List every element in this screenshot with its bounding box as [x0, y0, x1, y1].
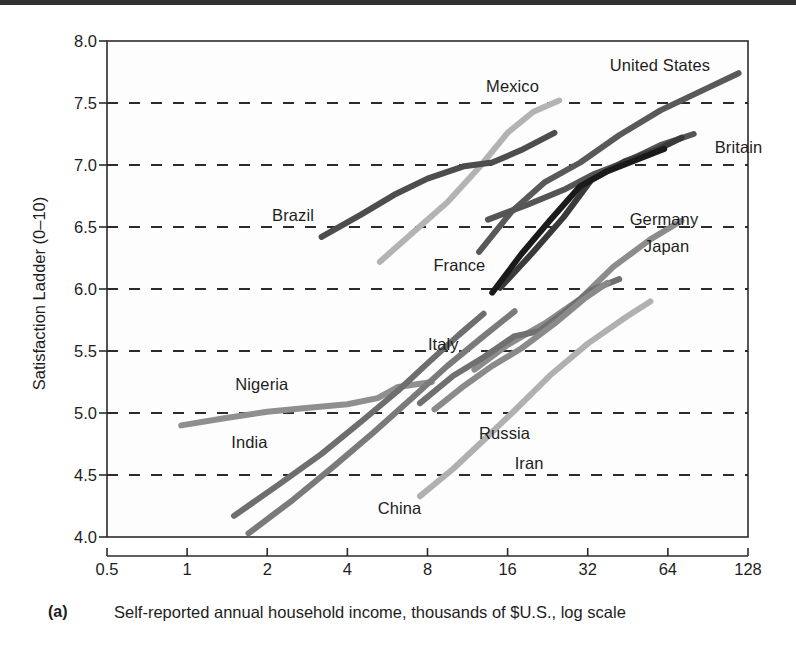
x-tick-label: 8 — [423, 560, 432, 579]
series-label-iran: Iran — [515, 454, 544, 473]
x-tick-label: 1 — [183, 560, 192, 579]
y-tick-label: 8.0 — [51, 32, 97, 51]
y-tick-label: 6.0 — [51, 280, 97, 299]
y-tick-label: 5.5 — [51, 342, 97, 361]
x-tick-label: 0.5 — [96, 560, 119, 579]
x-tick-label: 128 — [734, 560, 762, 579]
y-tick-label: 5.0 — [51, 404, 97, 423]
series-label-france: France — [433, 256, 485, 275]
y-tick-label: 4.5 — [51, 466, 97, 485]
series-label-nigeria: Nigeria — [235, 375, 288, 394]
panel-label: (a) — [48, 603, 68, 621]
y-tick-label: 6.5 — [51, 218, 97, 237]
y-tick-label: 7.0 — [51, 156, 97, 175]
series-label-italy: Italy — [428, 335, 459, 354]
x-tick-label: 64 — [659, 560, 677, 579]
series-label-germany: Germany — [630, 210, 699, 229]
x-tick-label: 16 — [498, 560, 516, 579]
x-tick-label: 32 — [579, 560, 597, 579]
y-tick-label: 4.0 — [51, 528, 97, 547]
y-tick-label: 7.5 — [51, 94, 97, 113]
series-label-britain: Britain — [715, 138, 762, 157]
series-label-india: India — [231, 433, 267, 452]
series-label-brazil: Brazil — [272, 206, 314, 225]
y-axis-title: Satisfaction Ladder (0–10) — [30, 144, 49, 444]
series-label-japan: Japan — [644, 237, 689, 256]
x-axis-title: Self-reported annual household income, t… — [114, 603, 626, 622]
series-label-mexico: Mexico — [486, 77, 539, 96]
series-label-united-states: United States — [610, 56, 710, 75]
x-tick-label: 4 — [343, 560, 352, 579]
satisfaction-income-chart — [0, 0, 796, 646]
series-label-china: China — [378, 499, 422, 518]
series-label-russia: Russia — [479, 424, 530, 443]
figure-panel-a: 0.512481632641284.04.55.05.56.06.57.07.5… — [0, 0, 796, 646]
x-tick-label: 2 — [263, 560, 272, 579]
